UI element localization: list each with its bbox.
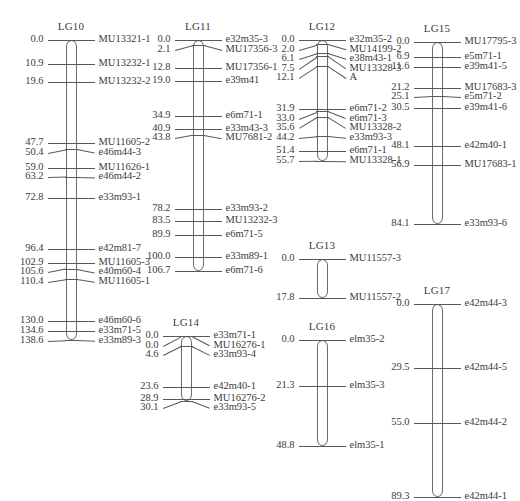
locus-leader-line <box>163 401 181 409</box>
locus-position-label: 30.1 <box>99 401 159 412</box>
locus-leader-line <box>175 45 193 51</box>
locus-leader-line <box>443 368 461 369</box>
locus-position-label: 29.5 <box>350 361 410 372</box>
locus-leader-line <box>48 269 66 274</box>
locus-position-label: 23.6 <box>99 380 159 391</box>
locus-leader-line <box>48 177 66 178</box>
locus-leader-line <box>443 108 461 109</box>
locus-tick <box>192 45 205 46</box>
locus-leader-line <box>328 151 346 152</box>
locus-marker-label: e6m71-5 <box>226 228 263 239</box>
locus-leader-line <box>192 387 210 388</box>
locus-position-label: 48.1 <box>350 139 410 150</box>
locus-marker-label: e6m71-6 <box>226 264 263 275</box>
locus-leader-line <box>443 497 461 498</box>
locus-position-label: 30.5 <box>350 101 410 112</box>
locus-marker-label: MU13232-3 <box>226 214 278 225</box>
locus-position-label: 96.4 <box>0 242 44 253</box>
locus-leader-line <box>191 346 209 356</box>
linkage-group-title: LG12 <box>282 20 362 32</box>
locus-leader-line <box>299 40 317 41</box>
locus-leader-line <box>204 257 222 258</box>
locus-marker-label: e42m44-3 <box>465 297 508 308</box>
locus-position-label: 48.8 <box>235 439 295 450</box>
locus-position-label: 34.9 <box>111 109 171 120</box>
locus-leader-line <box>414 96 432 98</box>
locus-leader-line <box>299 298 317 299</box>
locus-leader-line <box>299 446 317 447</box>
locus-marker-label: e42m40-1 <box>465 139 508 150</box>
locus-leader-line <box>414 423 432 424</box>
locus-marker-label: e33m93-4 <box>214 348 257 359</box>
locus-leader-line <box>204 40 222 41</box>
locus-leader-line <box>163 346 181 356</box>
locus-leader-line <box>443 224 461 225</box>
locus-position-label: 55.0 <box>350 416 410 427</box>
locus-position-label: 138.6 <box>0 334 44 345</box>
locus-marker-label: e46m44-3 <box>99 146 142 157</box>
locus-position-label: 89.3 <box>350 490 410 501</box>
locus-position-label: 2.1 <box>111 43 171 54</box>
locus-leader-line <box>414 497 432 498</box>
locus-leader-line <box>77 82 95 83</box>
locus-leader-line <box>48 249 66 250</box>
linkage-group-title: LG17 <box>397 284 477 296</box>
locus-marker-label: e42m44-2 <box>465 416 508 427</box>
locus-position-label: 19.0 <box>111 74 171 85</box>
locus-position-label: 12.1 <box>235 71 295 82</box>
locus-leader-line <box>77 263 95 264</box>
locus-position-label: 83.5 <box>111 214 171 225</box>
locus-tick <box>65 279 78 280</box>
locus-leader-line <box>328 386 346 387</box>
locus-leader-line <box>443 423 461 424</box>
locus-leader-line <box>163 399 181 400</box>
locus-marker-label: e42m40-1 <box>214 380 257 391</box>
locus-leader-line <box>443 304 461 305</box>
locus-leader-line <box>204 209 222 210</box>
locus-leader-line <box>299 340 317 341</box>
locus-leader-line <box>76 149 94 154</box>
locus-leader-line <box>414 146 432 147</box>
locus-leader-line <box>48 340 66 342</box>
locus-position-label: 0.0 <box>0 33 44 44</box>
locus-position-label: 78.2 <box>111 202 171 213</box>
locus-leader-line <box>328 109 346 110</box>
locus-position-label: 63.2 <box>0 170 44 181</box>
locus-leader-line <box>443 67 461 68</box>
locus-leader-line <box>48 149 66 154</box>
locus-leader-line <box>204 116 222 117</box>
locus-marker-label: e33m93-6 <box>465 217 508 228</box>
locus-tick <box>65 340 78 341</box>
locus-position-label: 0.0 <box>235 252 295 263</box>
locus-leader-line <box>191 336 209 346</box>
chromosome-bar <box>317 340 328 446</box>
locus-tick <box>316 161 329 162</box>
locus-position-label: 0.0 <box>350 35 410 46</box>
locus-leader-line <box>48 331 66 332</box>
locus-leader-line <box>77 40 95 41</box>
chromosome-bar <box>317 40 328 161</box>
locus-position-label: 89.9 <box>111 228 171 239</box>
locus-position-label: 43.8 <box>111 131 171 142</box>
locus-marker-label: elm35-3 <box>350 379 385 390</box>
locus-position-label: 72.8 <box>0 191 44 202</box>
linkage-group-title: LG15 <box>397 22 477 34</box>
locus-leader-line <box>328 446 346 447</box>
locus-leader-line <box>77 168 95 169</box>
locus-leader-line <box>414 42 432 43</box>
locus-leader-line <box>299 44 317 50</box>
locus-marker-label: e33m93-5 <box>214 401 257 412</box>
locus-leader-line <box>77 64 95 65</box>
locus-position-label: 110.4 <box>0 275 44 286</box>
linkage-group-title: LG11 <box>158 20 238 32</box>
locus-leader-line <box>175 40 193 41</box>
locus-leader-line <box>48 168 66 169</box>
locus-marker-label: e42m44-1 <box>465 490 508 501</box>
locus-leader-line <box>327 117 346 129</box>
locus-marker-label: e46m44-2 <box>99 170 142 181</box>
locus-position-label: 106.7 <box>111 264 171 275</box>
locus-marker-label: e33m93-1 <box>99 191 142 202</box>
locus-leader-line <box>414 224 432 225</box>
locus-leader-line <box>414 368 432 369</box>
locus-leader-line <box>204 68 222 69</box>
